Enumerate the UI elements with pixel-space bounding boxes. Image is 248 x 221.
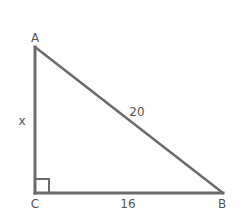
right-triangle-diagram: A C B x 20 16 xyxy=(0,0,248,221)
vertex-label-a: A xyxy=(31,31,40,45)
side-ab-hypotenuse xyxy=(35,47,223,193)
right-angle-marker xyxy=(35,179,49,193)
side-label-cb: 16 xyxy=(120,197,135,211)
vertex-label-b: B xyxy=(218,197,226,211)
side-label-ab: 20 xyxy=(129,105,144,119)
side-label-ac: x xyxy=(18,114,25,128)
vertex-label-c: C xyxy=(31,197,39,211)
